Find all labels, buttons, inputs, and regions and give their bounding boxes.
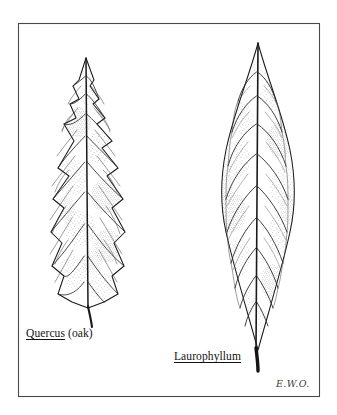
laurophyllum-label: Laurophyllum xyxy=(174,350,241,362)
quercus-label: Quercus (oak) xyxy=(26,327,93,339)
leaf-plate-drawing xyxy=(0,0,337,415)
quercus-common-name: (oak) xyxy=(68,327,93,339)
laurophyllum-genus-name: Laurophyllum xyxy=(174,350,241,362)
laurophyllum-petiole xyxy=(256,348,258,371)
quercus-genus-name: Quercus xyxy=(26,327,65,339)
botanical-plate: Quercus (oak) Laurophyllum E.W.O. xyxy=(0,0,337,415)
artist-signature: E.W.O. xyxy=(276,378,310,389)
laurophyllum-leaf-group xyxy=(218,43,296,371)
quercus-petiole xyxy=(88,306,92,327)
quercus-leaf-group xyxy=(50,58,125,327)
